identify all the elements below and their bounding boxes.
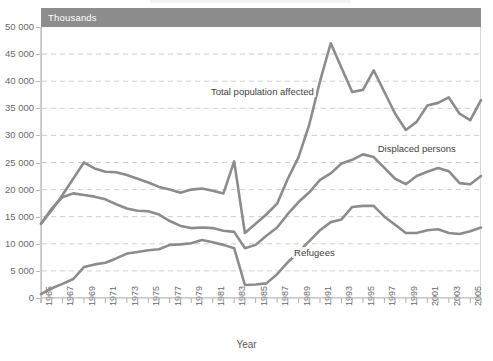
series-label-refugees: Refugees (292, 247, 337, 258)
chart-container: Thousands 05 00010 00015 00020 00025 000… (0, 0, 493, 361)
x-axis-title: Year (0, 339, 493, 350)
series-label-displaced: Displaced persons (376, 143, 458, 154)
series-label-total: Total population affected (209, 86, 316, 97)
series-line-total (41, 43, 481, 233)
plot-lines (0, 0, 493, 361)
